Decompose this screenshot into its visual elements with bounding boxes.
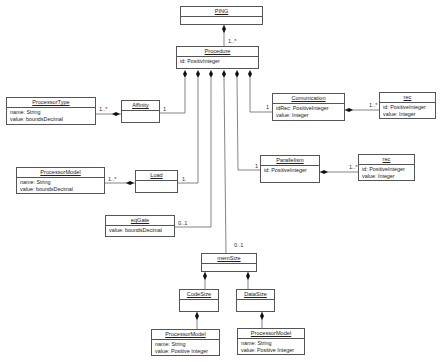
attribute: id: PositiveInteger xyxy=(362,166,411,173)
class-name: ProcessorType xyxy=(7,98,95,108)
attribute: value: Positive Integer xyxy=(241,347,301,354)
multiplicity-mem-size: 0..1 xyxy=(234,242,243,248)
attribute: value: boundsDecimal xyxy=(10,116,92,123)
attribute: name: String xyxy=(20,179,101,186)
class-comunication[interactable]: Comunication idRec: PositiveInteger valu… xyxy=(272,93,345,121)
class-name: ProcessorModel xyxy=(152,330,219,340)
class-processor-model-data[interactable]: ProcessorModel name: String value: Posit… xyxy=(237,328,305,355)
class-data-size[interactable]: DataSize xyxy=(236,289,275,312)
class-parallelism[interactable]: Parallelism id: PositiveInteger xyxy=(260,155,320,183)
class-name: rec xyxy=(359,155,414,165)
class-name: DataSize xyxy=(237,290,274,300)
attribute: value: boundsDecimal xyxy=(109,227,171,234)
multiplicity-rec-comm: 1..* xyxy=(369,102,377,108)
attribute: id: PositivInteger xyxy=(180,58,255,65)
multiplicity-ping-procedure: 1..* xyxy=(228,38,236,44)
class-rec-parallelism[interactable]: rec id: PositiveInteger value: Integer xyxy=(358,154,415,181)
class-code-size[interactable]: CodeSize xyxy=(179,289,219,312)
attribute: value: Positive Integer xyxy=(155,348,216,355)
attribute: name: String xyxy=(241,340,301,347)
attribute: value: boundsDecimal xyxy=(20,186,101,193)
multiplicity-load: 1 xyxy=(182,176,185,182)
class-name: ProcessorModel xyxy=(17,168,104,178)
class-rec-communication[interactable]: rec id: PositiveInteger value: Integer xyxy=(379,92,436,119)
attribute: value: Integer xyxy=(276,112,341,119)
class-name: Load xyxy=(136,171,177,181)
class-name: Comunication xyxy=(273,94,344,104)
class-name: Procedure xyxy=(177,47,258,57)
class-load[interactable]: Load xyxy=(135,170,178,193)
class-processor-model-load[interactable]: ProcessorModel name: String value: bound… xyxy=(16,167,105,194)
multiplicity-affinity: 1 xyxy=(163,106,166,112)
class-name: rec xyxy=(380,93,435,103)
class-eq-gate[interactable]: eqGate value: boundsDecimal xyxy=(105,215,175,237)
attribute: value: Integer xyxy=(362,173,411,180)
multiplicity-comunication: 1 xyxy=(266,104,269,110)
class-name: PING xyxy=(181,7,262,17)
class-name: ProcessorModel xyxy=(238,329,304,339)
multiplicity-parallelism: 1 xyxy=(255,163,258,169)
attribute: value: Integer xyxy=(383,111,432,118)
multiplicity-processor-type: 1..* xyxy=(99,106,107,112)
attribute: id: PositiveInteger xyxy=(264,167,316,174)
class-name: eqGate xyxy=(106,216,174,226)
class-processor-type[interactable]: ProcessorType name: String value: bounds… xyxy=(6,97,96,125)
class-name: Affinity xyxy=(122,101,159,111)
class-name: memSize xyxy=(202,254,256,264)
multiplicity-rec-par: 1..* xyxy=(349,164,357,170)
attribute: name: String xyxy=(10,109,92,116)
class-procedure[interactable]: Procedure id: PositivInteger xyxy=(176,46,259,69)
class-processor-model-code[interactable]: ProcessorModel name: String value: Posit… xyxy=(151,329,220,356)
attribute: idRec: PositiveInteger xyxy=(276,105,341,112)
class-ping[interactable]: PING xyxy=(180,6,263,25)
attribute: name: String xyxy=(155,341,216,348)
multiplicity-processor-model-load: 1..* xyxy=(108,176,116,182)
class-mem-size[interactable]: memSize xyxy=(201,253,257,272)
class-name: CodeSize xyxy=(180,290,218,300)
class-affinity[interactable]: Affinity xyxy=(121,100,160,123)
multiplicity-eq-gate: 0..1 xyxy=(178,220,187,226)
class-name: Parallelism xyxy=(261,156,319,166)
attribute: id: PositiveInteger xyxy=(383,104,432,111)
